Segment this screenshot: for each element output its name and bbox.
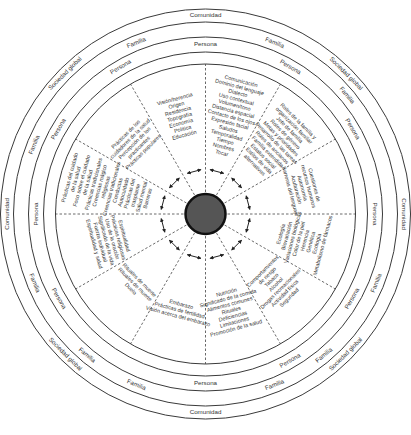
ring-label-familia: Familia <box>78 346 98 365</box>
ring-label-comunidad: Comunidad <box>3 198 10 230</box>
segment-muerte: Rituales de muerteRituales de muerteDuel… <box>113 262 158 307</box>
concentric-model-svg: ComunidadComunidadComunidadComunidadSoci… <box>0 0 411 435</box>
double-arrow-icon <box>210 170 224 174</box>
segment-riesgo: Comportamientosde riesgoTabacoAlcoholDro… <box>241 250 310 319</box>
segment-practicantes: Prácticas de loscuidadores de la saludPe… <box>104 113 164 173</box>
cultural-competence-diagram: ComunidadComunidadComunidadComunidadSoci… <box>0 0 411 435</box>
ring-label-persona: Persona <box>49 117 67 141</box>
ring-label-persona: Persona <box>32 202 39 226</box>
ring-label-persona: Persona <box>278 351 302 369</box>
ring-label-outer: Sociedad global <box>327 336 363 372</box>
segment-embarazo: EmbarazoPrácticas de fertilidadVisión ac… <box>145 293 214 328</box>
double-arrow-icon <box>187 170 201 174</box>
ring-label-outer: Sociedad global <box>328 55 364 91</box>
ring-label-familia: Familia <box>314 345 334 364</box>
double-arrow-icon <box>210 255 224 259</box>
ring-label-comunidad: Comunidad <box>190 11 222 18</box>
ring-label-persona: Persona <box>51 287 69 311</box>
segment-espiritualidad: EspiritualidadPrácticas religiosasUso de… <box>85 210 134 269</box>
double-arrow-icon <box>246 196 250 210</box>
ring-label-persona: Persona <box>109 57 133 75</box>
ring-label-persona: Persona <box>372 202 379 226</box>
ring-label-familia: Familia <box>338 85 357 105</box>
center-hub <box>186 194 226 234</box>
double-arrow-icon <box>169 240 179 250</box>
ring-label-outer: Sociedad global <box>46 55 82 91</box>
ring-label-familia: Familia <box>27 133 41 155</box>
double-arrow-icon <box>161 196 165 210</box>
ring-label-outer: Sociedad global <box>48 336 84 372</box>
ring-label-persona: Persona <box>343 286 361 310</box>
ring-label-comunidad: Comunidad <box>190 408 222 415</box>
double-arrow-icon <box>246 219 250 233</box>
double-arrow-icon <box>232 178 242 188</box>
ring-label-comunidad: Comunidad <box>401 198 408 230</box>
double-arrow-icon <box>169 178 179 188</box>
ring-label-familia: Familia <box>264 35 286 49</box>
segment-cuidado: Prácticas del cuidadode la saludFoco sob… <box>59 149 157 226</box>
ring-label-familia: Familia <box>264 377 286 391</box>
segment-herencia: Visión/herenciaOrigenResidenciaTopografí… <box>156 91 203 142</box>
segment-nutricion: NutriciónSignificado de la comidaAliment… <box>197 282 265 339</box>
ring-label-familia: Familia <box>369 272 383 294</box>
double-arrow-icon <box>232 240 242 250</box>
ring-label-persona: Persona <box>194 379 218 386</box>
ring-label-persona: Persona <box>279 58 303 76</box>
double-arrow-icon <box>161 219 165 233</box>
ring-label-familia: Familia <box>28 272 42 294</box>
ring-label-familia: Familia <box>126 35 148 49</box>
double-arrow-icon <box>187 255 201 259</box>
segment-trabajo: Cuestiones derecursos humanosAutonomíaAc… <box>281 159 324 216</box>
ring-label-persona: Persona <box>344 117 362 141</box>
ring-label-familia: Familia <box>126 377 148 391</box>
ring-label-persona: Persona <box>194 40 218 47</box>
